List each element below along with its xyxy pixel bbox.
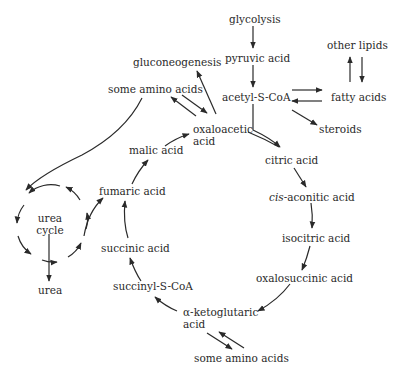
node-other-lipids: other lipids	[327, 39, 388, 51]
cis-prefix: cis	[269, 191, 284, 203]
node-malic-acid: malic acid	[129, 144, 183, 156]
arrow-acetyl-steroids	[292, 110, 317, 125]
arrow-amino-ureacycle	[26, 98, 142, 190]
node-citric-acid: citric acid	[265, 154, 318, 166]
node-succinyl-s-coa: succinyl-S-CoA	[113, 280, 193, 292]
node-succinic-acid: succinic acid	[101, 242, 170, 254]
node-gluconeogenesis: gluconeogenesis	[133, 56, 221, 68]
node-isocitric-acid: isocitric acid	[282, 232, 350, 244]
arrow-amino-ketoglutaric	[219, 332, 244, 348]
node-oxaloacetic-acid-line2: acid	[193, 135, 215, 147]
arrow-ketoglutaric-succinyl	[155, 297, 177, 311]
arrow-ureacycle-fumaric	[84, 198, 103, 236]
arrow-succinyl-succinic	[130, 258, 141, 281]
aconitic-acid-text: -aconitic acid	[284, 191, 355, 203]
arrow-amino-oxaloacetic	[182, 95, 207, 113]
arrow-oxalosuccinic-ketoglutaric	[258, 284, 290, 311]
node-fatty-acids: fatty acids	[331, 91, 386, 103]
node-some-amino-acids-top: some amino acids	[108, 83, 203, 95]
node-alpha-ketoglutaric-line1: α-ketoglutaric	[183, 306, 258, 318]
node-cis-aconitic-acid: cis-aconitic acid	[269, 191, 355, 203]
node-pyruvic-acid: pyruvic acid	[225, 52, 290, 64]
node-urea: urea	[38, 284, 62, 296]
arrow-succinic-fumaric	[124, 201, 128, 238]
arrow-fumaric-malic	[132, 160, 148, 184]
arrow-citric-cisaconitic	[294, 168, 306, 187]
arrow-oxaloacetic-amino	[171, 97, 196, 116]
node-acetyl-s-coa: acetyl-S-CoA	[222, 91, 290, 103]
node-oxalosuccinic-acid: oxalosuccinic acid	[256, 272, 353, 284]
node-oxaloacetic-acid-line1: oxaloacetic	[193, 123, 253, 135]
node-urea-cycle-line1: urea	[36, 212, 64, 224]
node-urea-cycle-line2: cycle	[36, 224, 64, 236]
node-fumaric-acid: fumaric acid	[99, 185, 166, 197]
node-some-amino-acids-bottom: some amino acids	[194, 352, 289, 364]
node-alpha-ketoglutaric-line2: acid	[183, 318, 205, 330]
arrow-isocitric-oxalosuccinic	[302, 246, 310, 270]
node-glycolysis: glycolysis	[229, 13, 281, 25]
arrow-cisaconitic-isocitric	[311, 203, 312, 228]
metabolic-pathway-diagram: glycolysis pyruvic acid acetyl-S-CoA oth…	[0, 0, 394, 373]
arrow-ketoglutaric-amino	[207, 333, 232, 349]
node-steroids: steroids	[319, 123, 362, 135]
